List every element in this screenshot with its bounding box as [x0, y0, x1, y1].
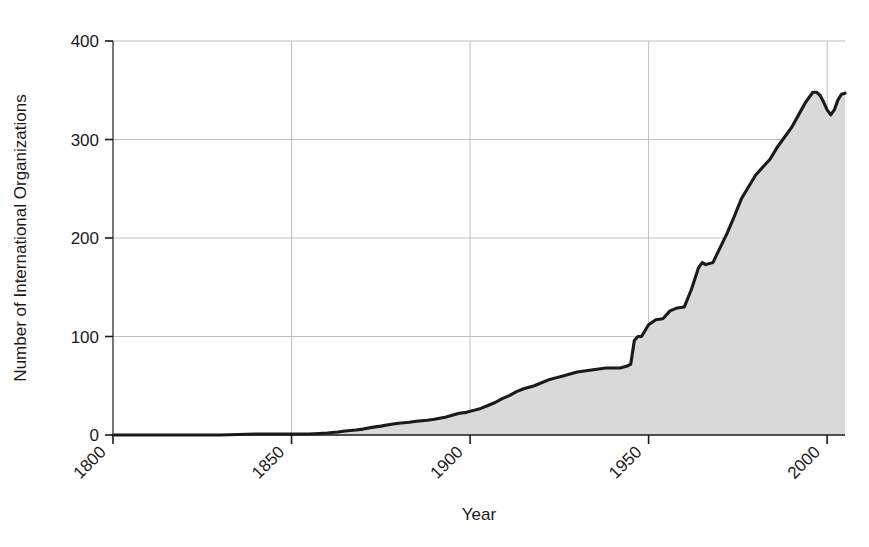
y-axis-title: Number of International Organizations — [11, 94, 30, 381]
line-area-chart: 0100200300400 18001850190019502000 Numbe… — [0, 0, 869, 547]
y-tick-label: 300 — [71, 131, 99, 150]
y-tick-label: 100 — [71, 328, 99, 347]
y-tick-label: 200 — [71, 229, 99, 248]
y-tick-label: 400 — [71, 32, 99, 51]
y-tick-label: 0 — [90, 426, 99, 445]
x-axis-title: Year — [462, 505, 497, 524]
chart-figure: 0100200300400 18001850190019502000 Numbe… — [0, 0, 869, 547]
